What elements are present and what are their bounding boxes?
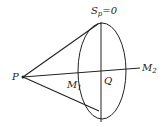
m2-sub: 2 — [152, 67, 156, 75]
m1-sub: 1 — [77, 84, 81, 92]
surface-label-rest: =0 — [102, 5, 117, 16]
point-q-label: Q — [104, 76, 112, 86]
point-p-label: P — [12, 72, 19, 82]
surface-label: Sp=0 — [91, 6, 117, 18]
m2-main: M — [142, 62, 152, 73]
point-m1-label: M1 — [67, 80, 82, 92]
point-p-dot — [22, 76, 25, 79]
tangent-upper — [23, 24, 98, 77]
surface-label-main: S — [91, 5, 98, 16]
point-m2-label: M2 — [142, 63, 157, 75]
m1-main: M — [67, 79, 77, 90]
tangent-lower — [23, 77, 99, 111]
line-p-m2 — [23, 68, 140, 77]
cone-diagram — [0, 0, 164, 127]
diagram-canvas: Sp=0 P M1 Q M2 — [0, 0, 164, 127]
